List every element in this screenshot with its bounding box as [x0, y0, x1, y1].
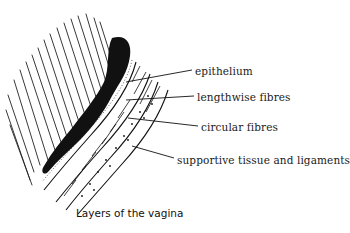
- label-lengthwise-fibres: lengthwise fibres: [197, 92, 291, 103]
- leader-epithelium: [126, 70, 192, 82]
- leader-lines: [126, 70, 198, 158]
- dark-tissue-region: [42, 37, 130, 174]
- leader-lengthwise: [126, 96, 194, 100]
- leader-supportive: [132, 146, 174, 158]
- figure-caption: Layers of the vagina: [76, 208, 183, 219]
- label-epithelium: epithelium: [195, 66, 253, 77]
- label-supportive-tissue: supportive tissue and ligaments: [177, 155, 350, 166]
- label-circular-fibres: circular fibres: [201, 122, 278, 133]
